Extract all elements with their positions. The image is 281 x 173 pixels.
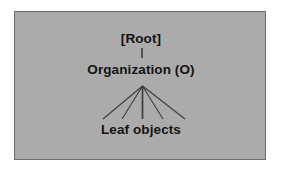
diagram-panel: [Root] Organization (O) Leaf objects <box>14 11 266 160</box>
edge-organization-to-leaf-2 <box>122 86 143 119</box>
figure-canvas: [Root] Organization (O) Leaf objects <box>0 0 281 173</box>
edge-organization-to-leaf-4 <box>143 86 164 119</box>
edge-organization-to-leaf-1 <box>103 86 143 119</box>
node-label-organization: Organization (O) <box>15 62 266 77</box>
node-label-root: [Root] <box>15 31 266 46</box>
node-label-leaf-objects: Leaf objects <box>15 122 266 137</box>
edge-organization-to-leaf-5 <box>143 86 186 119</box>
